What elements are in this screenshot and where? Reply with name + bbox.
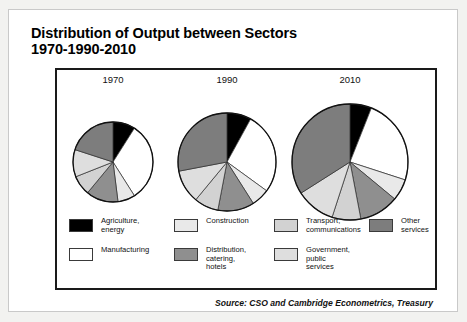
chart-legend: Agriculture, energyManufacturingConstruc… <box>69 218 429 280</box>
title-line-2: 1970-1990-2010 <box>31 41 431 57</box>
legend-label: Other services <box>401 217 429 234</box>
source-note: Source: CSO and Cambridge Econometrics, … <box>215 298 433 308</box>
legend-swatch-government <box>274 248 298 261</box>
legend-swatch-other <box>369 219 393 232</box>
legend-label: Manufacturing <box>101 246 149 255</box>
figure-page: Distribution of Output between Sectors 1… <box>0 0 467 322</box>
legend-label: Agriculture, energy <box>101 217 139 234</box>
legend-swatch-transport <box>274 219 298 232</box>
legend-swatch-distribution <box>174 248 198 261</box>
pie-slice-1990-6 <box>178 113 227 171</box>
year-label-2010: 2010 <box>320 74 380 85</box>
legend-label: Construction <box>206 217 249 226</box>
pie-chart-1990 <box>176 111 278 213</box>
legend-label: Government, public services <box>306 246 350 272</box>
plot-frame: 197019902010 Agriculture, energyManufact… <box>55 68 437 290</box>
year-label-1990: 1990 <box>197 74 257 85</box>
legend-swatch-construction <box>174 219 198 232</box>
outer-frame: Distribution of Output between Sectors 1… <box>8 9 458 312</box>
legend-swatch-agriculture <box>69 219 93 232</box>
pie-chart-2010 <box>290 102 410 222</box>
pie-chart-1970 <box>71 120 155 204</box>
page-title: Distribution of Output between Sectors 1… <box>31 25 431 57</box>
legend-swatch-manufacturing <box>69 248 93 261</box>
year-label-1970: 1970 <box>83 74 143 85</box>
legend-label: Distribution, catering, hotels <box>206 246 246 272</box>
legend-label: Transport, communications <box>306 217 361 234</box>
title-line-1: Distribution of Output between Sectors <box>31 25 431 41</box>
